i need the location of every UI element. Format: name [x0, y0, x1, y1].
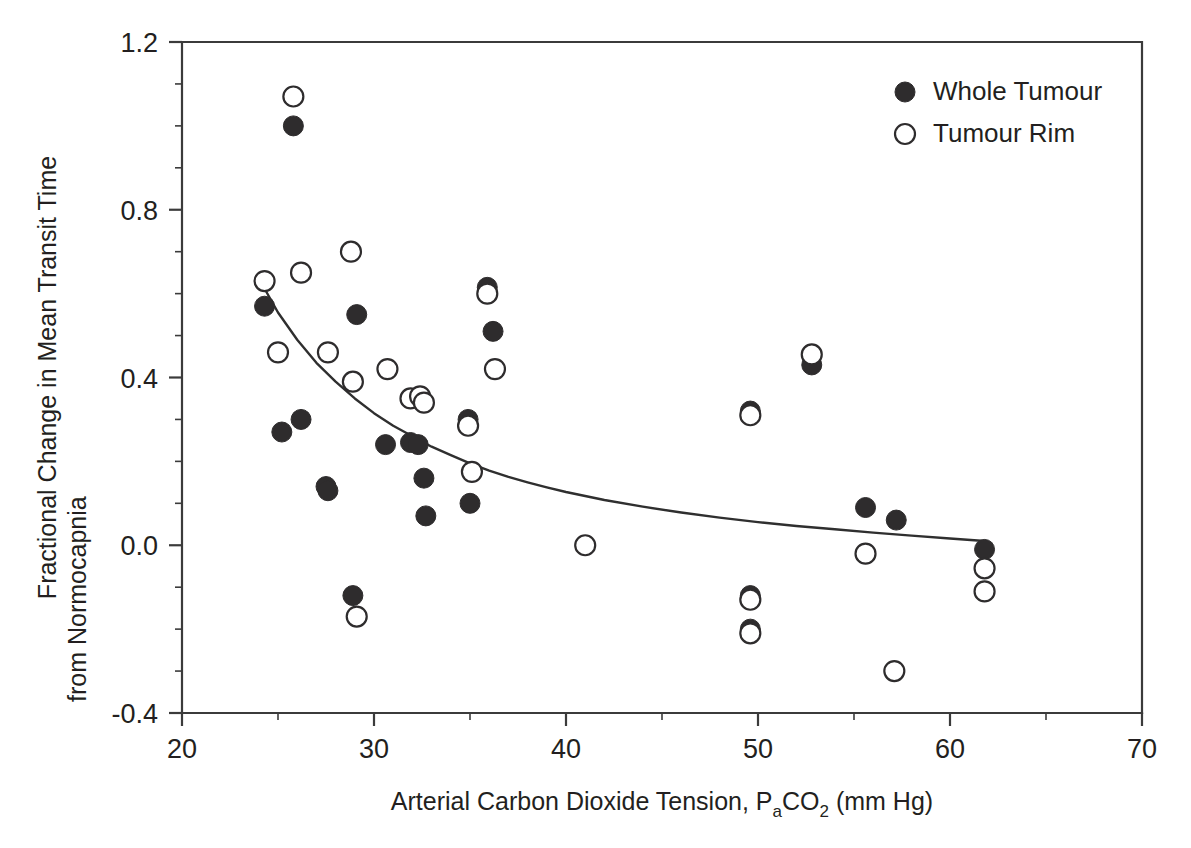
y-axis-title-line2: from Normocapnia	[63, 496, 91, 702]
data-point-tumour-rim	[856, 544, 876, 564]
x-tick-label: 60	[935, 734, 965, 764]
data-points	[255, 87, 995, 682]
legend-marker-whole-tumour	[895, 82, 915, 102]
data-point-whole-tumour	[856, 498, 876, 518]
x-tick-label: 70	[1127, 734, 1157, 764]
data-point-whole-tumour	[347, 305, 367, 325]
data-point-whole-tumour	[975, 539, 995, 559]
data-point-tumour-rim	[458, 416, 478, 436]
data-point-tumour-rim	[283, 87, 303, 107]
x-tick-label: 40	[551, 734, 581, 764]
data-point-tumour-rim	[377, 359, 397, 379]
regression-curve	[263, 285, 985, 541]
data-point-tumour-rim	[975, 581, 995, 601]
legend-label: Tumour Rim	[933, 118, 1075, 148]
x-tick-label: 20	[167, 734, 197, 764]
data-point-tumour-rim	[575, 535, 595, 555]
y-tick-label: 0.8	[120, 196, 158, 226]
data-point-tumour-rim	[884, 661, 904, 681]
y-tick-label: 1.2	[120, 28, 158, 58]
y-axis-title: Fractional Change in Mean Transit Timefr…	[33, 156, 91, 702]
x-tick-label: 50	[743, 734, 773, 764]
data-point-whole-tumour	[886, 510, 906, 530]
scatter-plot: 203040506070-0.40.00.40.81.2 Whole Tumou…	[0, 0, 1191, 848]
axis-titles: Arterial Carbon Dioxide Tension, PaCO2 (…	[33, 156, 933, 821]
data-point-tumour-rim	[343, 372, 363, 392]
x-tick-label: 30	[359, 734, 389, 764]
y-tick-label: 0.0	[120, 531, 158, 561]
data-point-whole-tumour	[272, 422, 292, 442]
data-point-whole-tumour	[318, 481, 338, 501]
data-point-tumour-rim	[975, 558, 995, 578]
data-point-tumour-rim	[255, 271, 275, 291]
data-point-tumour-rim	[477, 284, 497, 304]
y-axis-title-line1: Fractional Change in Mean Transit Time	[33, 156, 61, 599]
data-point-tumour-rim	[802, 344, 822, 364]
legend-marker-tumour-rim	[895, 124, 915, 144]
data-point-whole-tumour	[416, 506, 436, 526]
y-tick-label: 0.4	[120, 364, 158, 394]
data-point-tumour-rim	[291, 263, 311, 283]
figure-container: 203040506070-0.40.00.40.81.2 Whole Tumou…	[0, 0, 1191, 848]
data-point-tumour-rim	[318, 342, 338, 362]
x-axis-title: Arterial Carbon Dioxide Tension, PaCO2 (…	[391, 787, 933, 821]
data-point-whole-tumour	[408, 435, 428, 455]
data-point-whole-tumour	[460, 493, 480, 513]
data-point-tumour-rim	[414, 393, 434, 413]
data-point-whole-tumour	[483, 321, 503, 341]
data-point-whole-tumour	[414, 468, 434, 488]
data-point-tumour-rim	[341, 242, 361, 262]
data-point-tumour-rim	[740, 623, 760, 643]
data-point-tumour-rim	[268, 342, 288, 362]
legend-label: Whole Tumour	[933, 76, 1102, 106]
data-point-whole-tumour	[291, 409, 311, 429]
fit-curve	[263, 285, 985, 541]
legend: Whole TumourTumour Rim	[895, 76, 1102, 148]
data-point-whole-tumour	[343, 586, 363, 606]
data-point-tumour-rim	[485, 359, 505, 379]
data-point-whole-tumour	[255, 296, 275, 316]
data-point-whole-tumour	[283, 116, 303, 136]
data-point-tumour-rim	[462, 462, 482, 482]
data-point-tumour-rim	[740, 405, 760, 425]
data-point-whole-tumour	[376, 435, 396, 455]
y-tick-label: -0.4	[111, 699, 158, 729]
data-point-tumour-rim	[347, 607, 367, 627]
data-point-tumour-rim	[740, 590, 760, 610]
